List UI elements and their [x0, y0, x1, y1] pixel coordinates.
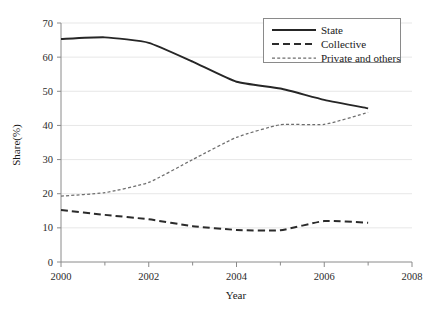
y-tick-label: 70: [43, 18, 54, 29]
line-chart: 010203040506070 20002002200420062008 Sha…: [0, 0, 427, 315]
legend-label-collective: Collective: [321, 38, 366, 50]
chart-canvas: 010203040506070 20002002200420062008 Sha…: [0, 0, 427, 315]
y-tick-label: 20: [43, 188, 54, 199]
y-tick-label: 60: [43, 52, 54, 63]
x-axis-title: Year: [226, 289, 247, 301]
y-tick-label: 50: [43, 86, 54, 97]
x-tick-label: 2002: [138, 271, 159, 282]
legend-label-state: State: [321, 24, 343, 36]
y-tick-label: 10: [43, 222, 54, 233]
x-tick-label: 2008: [402, 271, 423, 282]
chart-legend: StateCollectivePrivate and others: [264, 19, 401, 65]
y-tick-label: 40: [43, 120, 54, 131]
y-tick-label: 0: [48, 257, 53, 268]
x-tick-label: 2000: [51, 271, 72, 282]
x-tick-label: 2006: [314, 271, 335, 282]
x-tick-label: 2004: [226, 271, 248, 282]
y-tick-label: 30: [43, 154, 54, 165]
y-axis-title: Share(%): [10, 124, 23, 166]
legend-label-private-and-others: Private and others: [321, 52, 400, 64]
